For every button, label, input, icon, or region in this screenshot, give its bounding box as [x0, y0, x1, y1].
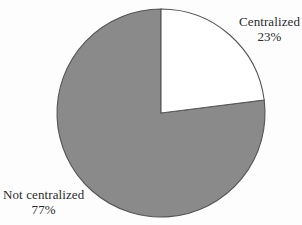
pie-label-not-centralized-value: 77% [3, 203, 84, 218]
pie-slices [57, 9, 265, 217]
pie-label-centralized: Centralized 23% [239, 15, 300, 44]
pie-chart: Centralized 23% Not centralized 77% [0, 0, 302, 225]
pie-label-centralized-name: Centralized [239, 15, 300, 30]
pie-label-not-centralized-name: Not centralized [3, 188, 84, 203]
pie-label-not-centralized: Not centralized 77% [3, 188, 84, 217]
pie-label-centralized-value: 23% [239, 30, 300, 45]
